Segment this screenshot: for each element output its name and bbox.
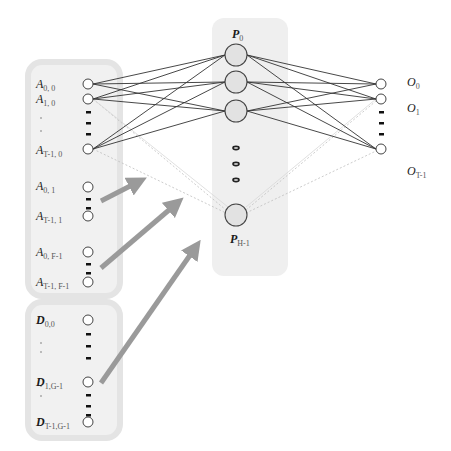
input-node: [83, 417, 93, 427]
output-nodes: [376, 79, 386, 154]
output-node: [376, 94, 386, 104]
output-node: [376, 144, 386, 154]
input-node: [83, 182, 93, 192]
svg-text:O0: O0: [407, 75, 420, 91]
input-node: [83, 94, 93, 104]
ellipsis-dashes-o: [379, 111, 384, 136]
hidden-node: [225, 71, 247, 93]
input-node: [83, 277, 93, 287]
svg-text:OT-1: OT-1: [407, 164, 427, 180]
svg-text:O1: O1: [407, 101, 420, 117]
input-node: [83, 79, 93, 89]
input-node: [83, 377, 93, 387]
output-labels: O0 O1 OT-1: [407, 75, 427, 180]
hidden-node: [225, 100, 247, 122]
neural-network-diagram: A0, 0 A1, 0 AT-1, 0 A0, 1 AT-1, 1 A0, F-…: [0, 0, 451, 451]
hidden-node: [225, 204, 247, 226]
input-node: [83, 315, 93, 325]
input-node: [83, 247, 93, 257]
input-node: [83, 144, 93, 154]
input-node: [83, 211, 93, 221]
output-node: [376, 79, 386, 89]
hidden-node: [225, 44, 247, 66]
